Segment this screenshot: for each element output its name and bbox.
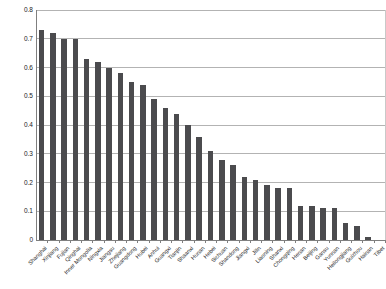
y-tick-label: 0.3 <box>11 151 33 157</box>
bar <box>84 59 90 240</box>
bar <box>320 208 326 240</box>
x-tick-label: Tibet <box>373 245 386 258</box>
x-tick <box>126 241 127 243</box>
bar-chart: 00.10.20.30.40.50.60.70.8 ShanghaiXinjia… <box>0 0 386 289</box>
bar <box>298 206 304 241</box>
x-tick <box>59 241 60 243</box>
y-tick-label: 0.5 <box>11 93 33 99</box>
bar <box>39 30 45 240</box>
x-tick <box>250 241 251 243</box>
bar <box>208 151 214 240</box>
bar <box>61 39 67 240</box>
y-tick-label: 0.6 <box>11 65 33 71</box>
bar <box>253 180 259 240</box>
y-axis-line <box>36 10 37 241</box>
x-tick <box>362 241 363 243</box>
bar <box>106 68 112 241</box>
x-tick <box>216 241 217 243</box>
x-tick <box>374 241 375 243</box>
x-tick <box>47 241 48 243</box>
bar <box>50 33 56 240</box>
x-tick-label: Hubei <box>135 245 150 260</box>
bar <box>264 185 270 240</box>
x-tick <box>104 241 105 243</box>
bar <box>129 82 135 240</box>
x-tick <box>137 241 138 243</box>
x-tick <box>306 241 307 243</box>
bar <box>196 137 202 241</box>
y-tick-label: 0.4 <box>11 122 33 128</box>
x-axis-line <box>36 240 386 241</box>
bar <box>365 237 371 240</box>
x-tick <box>70 241 71 243</box>
bar <box>354 226 360 240</box>
gridline <box>36 10 385 11</box>
bar <box>163 108 169 240</box>
bar <box>343 223 349 240</box>
y-tick-label: 0.8 <box>11 7 33 13</box>
bar <box>73 39 79 240</box>
x-tick <box>205 241 206 243</box>
x-tick <box>261 241 262 243</box>
y-tick-label: 0.7 <box>11 36 33 42</box>
bar <box>275 188 281 240</box>
x-tick <box>92 241 93 243</box>
x-tick <box>284 241 285 243</box>
x-tick <box>149 241 150 243</box>
x-tick <box>329 241 330 243</box>
y-tick-label: 0.2 <box>11 180 33 186</box>
bar <box>332 208 338 240</box>
x-tick <box>239 241 240 243</box>
x-tick <box>171 241 172 243</box>
x-tick <box>340 241 341 243</box>
x-tick <box>115 241 116 243</box>
x-tick <box>272 241 273 243</box>
bar <box>95 62 101 240</box>
x-tick <box>227 241 228 243</box>
bar <box>140 85 146 240</box>
x-tick <box>194 241 195 243</box>
bar <box>151 99 157 240</box>
x-tick <box>160 241 161 243</box>
bar <box>230 165 236 240</box>
x-tick <box>317 241 318 243</box>
bar <box>174 114 180 241</box>
x-tick <box>351 241 352 243</box>
x-tick <box>182 241 183 243</box>
bar <box>118 73 124 240</box>
y-tick-label: 0 <box>11 237 33 243</box>
bar <box>219 160 225 241</box>
y-tick-label: 0.1 <box>11 208 33 214</box>
bar <box>309 206 315 241</box>
bar <box>242 177 248 240</box>
x-tick <box>81 241 82 243</box>
bar <box>287 188 293 240</box>
gridline <box>36 38 385 39</box>
x-tick <box>295 241 296 243</box>
bar <box>185 125 191 240</box>
